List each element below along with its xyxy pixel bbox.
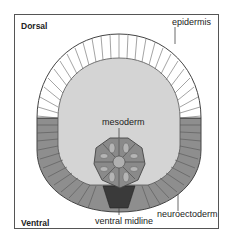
ventral-midline-label: ventral midline [95, 217, 153, 226]
ventral-label: Ventral [21, 219, 49, 228]
epidermis-label: epidermis [172, 18, 211, 27]
neuroectoderm-label: neuroectoderm [157, 210, 218, 219]
dorsal-label: Dorsal [21, 22, 47, 31]
mesoderm-label: mesoderm [102, 118, 145, 127]
